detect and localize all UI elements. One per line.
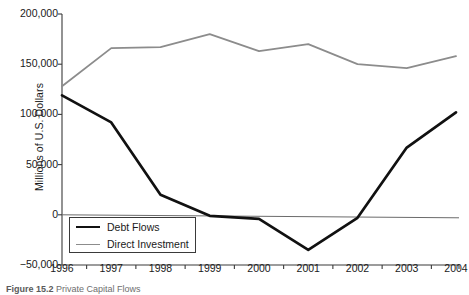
x-tick-label: 1996 <box>40 262 84 274</box>
y-axis-title: Millions of U.S. Dollars <box>33 42 45 232</box>
legend-label-debt-flows: Debt Flows <box>107 221 160 233</box>
y-tick-label: 200,000 <box>2 7 58 19</box>
legend-line-swatch-debt-flows <box>76 226 100 228</box>
y-tick-label: 0 <box>2 208 58 220</box>
figure-caption: Figure 15.2 Private Capital Flows <box>6 284 141 294</box>
x-tick-label: 2003 <box>385 262 429 274</box>
x-tick-label: 1998 <box>139 262 183 274</box>
x-tick-label: 2004 <box>434 262 469 274</box>
chart-legend: Debt Flows Direct Investment <box>69 217 196 253</box>
x-tick-label: 1997 <box>89 262 133 274</box>
x-tick-label: 2002 <box>336 262 380 274</box>
legend-line-swatch-direct-investment <box>76 244 100 245</box>
y-axis-tick-labels: −50,000050,000100,000150,000200,000 <box>0 0 58 295</box>
x-tick-label: 2000 <box>237 262 281 274</box>
figure-caption-text: Private Capital Flows <box>56 284 141 294</box>
y-tick-label: 150,000 <box>2 57 58 69</box>
x-tick-label: 2001 <box>286 262 330 274</box>
figure-container: −50,000050,000100,000150,000200,000 1996… <box>0 0 469 295</box>
figure-number: Figure 15.2 <box>6 284 54 294</box>
y-tick-label: 50,000 <box>2 158 58 170</box>
series-line-direct-investment <box>62 34 456 86</box>
legend-label-direct-investment: Direct Investment <box>107 238 189 250</box>
legend-item-direct-investment: Direct Investment <box>76 236 189 252</box>
x-tick-label: 1999 <box>188 262 232 274</box>
y-tick-label: 100,000 <box>2 107 58 119</box>
legend-item-debt-flows: Debt Flows <box>76 219 160 235</box>
